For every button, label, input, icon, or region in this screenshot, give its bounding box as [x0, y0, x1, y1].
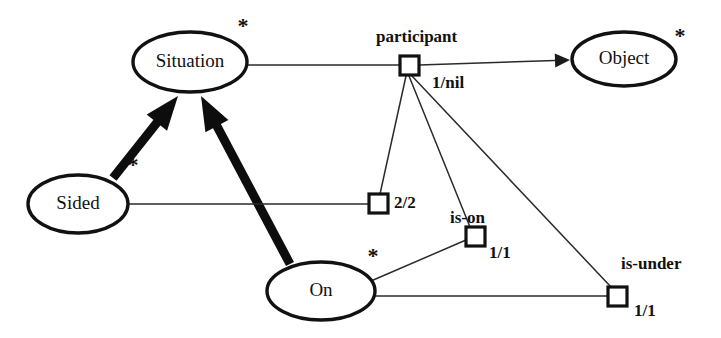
edge-participant-to-is-under[interactable] — [412, 76, 611, 287]
edge-participant-to-object[interactable] — [419, 54, 570, 68]
diagram-svg: SituationObjectSidedOn participant1/nil2… — [0, 0, 721, 338]
multiplicity-node-2-2: 2/2 — [394, 193, 416, 212]
relation-name-is-on: is-on — [450, 208, 486, 227]
multiplicity-is-under: 1/1 — [634, 301, 656, 320]
entity-sided[interactable]: Sided — [28, 175, 128, 233]
star-situation: * — [238, 13, 249, 38]
entity-label-situation: Situation — [156, 50, 225, 71]
edge-line — [409, 76, 470, 227]
star-sided: * — [128, 152, 139, 177]
edge-line — [214, 121, 290, 264]
multiplicity-participant: 1/nil — [432, 73, 464, 92]
relation-node-node-2-2[interactable] — [369, 194, 388, 213]
edge-on-to-is-on[interactable] — [371, 240, 466, 281]
nodes-layer: SituationObjectSidedOn — [28, 32, 676, 320]
multiplicity-is-on: 1/1 — [489, 243, 511, 262]
edge-on-to-situation[interactable] — [201, 96, 290, 264]
arrowhead-icon — [201, 96, 228, 132]
relation-square — [400, 56, 419, 75]
relation-square — [608, 287, 627, 306]
diagram-canvas-container: SituationObjectSidedOn participant1/nil2… — [0, 0, 721, 338]
entity-on[interactable]: On — [267, 262, 375, 320]
relation-node-is-on[interactable] — [466, 227, 485, 246]
edge-line — [371, 240, 466, 281]
entity-situation[interactable]: Situation — [133, 32, 247, 92]
entity-label-on: On — [309, 279, 333, 300]
edge-line — [412, 76, 611, 287]
star-on: * — [368, 243, 379, 268]
entity-label-sided: Sided — [56, 192, 100, 213]
star-object: * — [675, 23, 686, 48]
relation-name-participant: participant — [376, 27, 458, 46]
relation-square — [369, 194, 388, 213]
arrowhead-icon — [555, 54, 570, 68]
relation-node-is-under[interactable] — [608, 287, 627, 306]
edge-line — [380, 76, 406, 194]
relation-name-is-under: is-under — [621, 254, 682, 273]
entity-object[interactable]: Object — [572, 32, 676, 86]
entity-label-object: Object — [599, 47, 650, 68]
edge-participant-to-is-on[interactable] — [409, 76, 470, 227]
edge-line — [419, 60, 555, 65]
relation-square — [466, 227, 485, 246]
relation-node-participant[interactable] — [400, 56, 419, 75]
edge-participant-to-2-2[interactable] — [380, 76, 406, 194]
edge-sided-to-situation[interactable] — [113, 96, 178, 178]
